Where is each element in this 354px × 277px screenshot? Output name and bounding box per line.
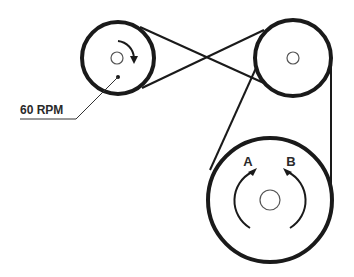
- belt-pulley-diagram: A B 60 RPM: [0, 0, 354, 277]
- crossed-belt-strand-2: [142, 30, 264, 88]
- direction-a-label: A: [243, 154, 253, 169]
- crossed-belt: [140, 27, 266, 88]
- top-right-pulley: [255, 20, 331, 96]
- crossed-belt-strand-1: [140, 27, 266, 84]
- speed-label: 60 RPM: [20, 103, 63, 117]
- large-pulley-rim: [208, 138, 332, 262]
- top-right-pulley-rim: [255, 20, 331, 96]
- direction-b-label: B: [286, 154, 295, 169]
- large-pulley: A B: [208, 138, 332, 262]
- small-drive-pulley: [82, 22, 154, 94]
- small-pulley-rim: [82, 22, 154, 94]
